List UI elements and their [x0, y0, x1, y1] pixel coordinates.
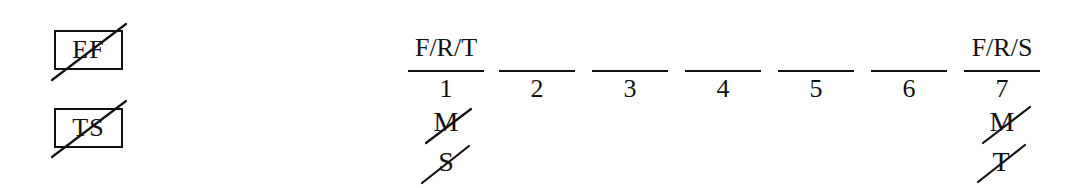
- slot-3-rule: [592, 70, 668, 72]
- slot-2: 2: [499, 31, 575, 101]
- slot-1-rule: [408, 70, 484, 72]
- legend-label-ef: EF: [72, 35, 104, 64]
- slot-6-number: 6: [871, 74, 947, 104]
- slot-3-label: [592, 31, 668, 65]
- slot-2-label: [499, 31, 575, 65]
- slot-4-number: 4: [685, 74, 761, 104]
- slot-7: F/R/S 7: [964, 31, 1040, 101]
- slot-7-number: 7: [964, 74, 1040, 104]
- slot-6: 6: [871, 31, 947, 101]
- slot-3: 3: [592, 31, 668, 101]
- slot-7-struck-t: T: [979, 146, 1023, 178]
- slot-6-rule: [871, 70, 947, 72]
- legend-label-ts: TS: [72, 113, 104, 142]
- slot-2-number: 2: [499, 74, 575, 104]
- slot-2-rule: [499, 70, 575, 72]
- slot-7-struck-m: M: [980, 106, 1024, 138]
- slot-3-number: 3: [592, 74, 668, 104]
- slot-5-rule: [778, 70, 854, 72]
- slot-5-label: [778, 31, 854, 65]
- slot-1-number: 1: [408, 74, 484, 104]
- slot-1-struck-s: S: [424, 146, 468, 178]
- legend-box-ts: TS: [54, 108, 123, 148]
- legend-box-ef: EF: [54, 30, 123, 70]
- slot-7-label: F/R/S: [964, 31, 1040, 65]
- slot-4-rule: [685, 70, 761, 72]
- slot-5-number: 5: [778, 74, 854, 104]
- slot-1-struck-m: M: [424, 106, 468, 138]
- slot-4-label: [685, 31, 761, 65]
- slot-5: 5: [778, 31, 854, 101]
- slot-1: F/R/T 1: [408, 31, 484, 101]
- slot-1-label: F/R/T: [408, 31, 484, 65]
- slot-4: 4: [685, 31, 761, 101]
- slot-7-rule: [964, 70, 1040, 72]
- slot-6-label: [871, 31, 947, 65]
